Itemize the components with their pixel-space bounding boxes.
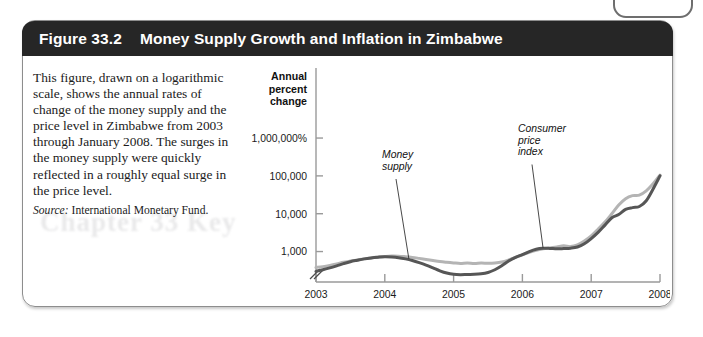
series-line-consumer-price-index (316, 176, 660, 275)
annotation-label-consumer-price-index: Consumer (518, 123, 566, 134)
annotation-label-consumer-price-index: price (517, 135, 541, 146)
annotation-leader-consumer-price-index (532, 165, 543, 248)
x-tick-label: 2007 (580, 289, 603, 300)
annotation-leader-money-supply (396, 179, 409, 259)
x-tick-label: 2004 (373, 289, 396, 300)
figure-number: Figure 33.2 (39, 30, 122, 48)
figure-title-bar: Figure 33.2 Money Supply Growth and Infl… (22, 21, 673, 56)
y-axis-title-line: change (270, 95, 307, 107)
x-tick-label: 2003 (304, 289, 327, 300)
figure-source: Source: International Monetary Fund. (33, 203, 238, 219)
line-chart: 1,000,000%100,00010,0001,000200320042005… (250, 62, 670, 302)
y-axis-title-line: percent (269, 83, 308, 95)
x-tick-label: 2008 (648, 289, 670, 300)
figure-title: Money Supply Growth and Inflation in Zim… (140, 30, 503, 48)
annotation-label-consumer-price-index: index (518, 146, 544, 157)
annotation-label-money-supply: supply (382, 161, 413, 172)
x-tick-label: 2005 (442, 289, 465, 300)
chart-svg: 1,000,000%100,00010,0001,000200320042005… (250, 62, 670, 302)
figure-caption: This figure, drawn on a logarithmic scal… (33, 70, 238, 219)
y-tick-label: 10,000 (275, 209, 307, 220)
y-axis-title-line: Annual (271, 70, 307, 82)
source-label: Source: (33, 204, 69, 217)
y-tick-label: 100,000 (269, 171, 307, 182)
y-tick-label: 1,000,000% (252, 133, 307, 144)
x-tick-label: 2006 (511, 289, 534, 300)
page-corner-tab (613, 0, 693, 18)
caption-text: This figure, drawn on a logarithmic scal… (33, 70, 228, 198)
annotation-label-money-supply: Money (382, 149, 414, 160)
y-tick-label: 1,000 (281, 246, 307, 257)
source-text: International Monetary Fund. (69, 204, 209, 217)
